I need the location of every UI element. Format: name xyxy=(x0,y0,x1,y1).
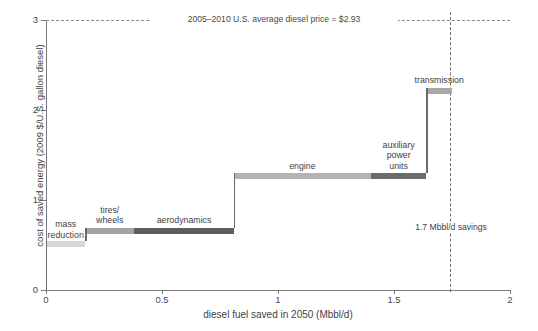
step-bar-cap xyxy=(234,173,371,179)
x-tick-label-0: 0 xyxy=(26,294,66,305)
diesel-price-reference-label: 2005–2010 U.S. average diesel price = $2… xyxy=(150,14,398,24)
step-riser-0 xyxy=(46,241,47,290)
x-axis-title: diesel fuel saved in 2050 (Mbbl/d) xyxy=(46,309,510,320)
step-riser-4 xyxy=(371,173,372,174)
step-bar-cap xyxy=(134,228,234,234)
x-tick-label-2: 2 xyxy=(490,294,530,305)
step-bar-engine[interactable] xyxy=(234,173,371,290)
step-label-aerodynamics: aerodynamics xyxy=(122,215,246,226)
step-bar-transmission[interactable] xyxy=(426,88,452,291)
step-riser-2 xyxy=(134,228,135,229)
step-label-transmission: transmission xyxy=(413,75,465,86)
step-bar-cap xyxy=(371,173,427,179)
step-bar-cap xyxy=(46,241,85,247)
step-bar-mass-reduction[interactable] xyxy=(46,241,85,290)
y-tick-label-0: 0 xyxy=(10,285,38,294)
step-bar-cap xyxy=(426,88,452,94)
step-bar-auxiliary-power-units[interactable] xyxy=(371,173,427,290)
step-bar-aerodynamics[interactable] xyxy=(134,228,234,290)
chart-figure: 0 1 2 3 0 0.5 1 1.5 2 cost of saved ener… xyxy=(0,0,538,331)
x-tick-label-0.5: 0.5 xyxy=(142,294,182,305)
x-tick-label-1.5: 1.5 xyxy=(374,294,414,305)
step-label-auxiliary-power-units: auxiliary power units xyxy=(359,140,439,172)
figure-title xyxy=(60,0,480,4)
x-tick-label-1: 1 xyxy=(258,294,298,305)
